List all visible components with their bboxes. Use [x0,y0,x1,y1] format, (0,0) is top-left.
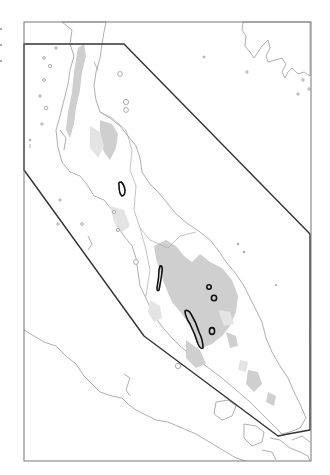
map-canvas [0,0,330,475]
islet [308,88,310,90]
western-landmass-coast [124,374,130,396]
northeast-coast [242,22,310,78]
islet [297,93,299,95]
lower-right-islands [244,424,264,446]
islet [203,56,205,58]
peninsula-landmass [56,22,306,434]
lower-right-islands [262,450,276,460]
islet [302,79,304,81]
lower-right-islands [270,438,310,461]
lower-right-islands [292,436,310,442]
islet [246,71,248,73]
